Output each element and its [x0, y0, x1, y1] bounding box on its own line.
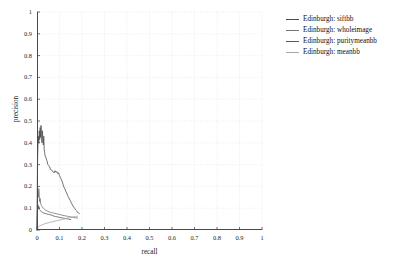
x-tick-label: 0 [35, 235, 38, 241]
x-tick-label: 0.5 [146, 235, 154, 241]
y-tick-label: 0.4 [0, 140, 32, 146]
y-tick-label: 0 [0, 227, 32, 233]
x-axis-title: recall [37, 248, 262, 256]
precision-recall-figure: 00.10.20.30.40.50.60.70.80.91 00.10.20.3… [0, 0, 420, 263]
legend-label: Edinburgh: siftbb [303, 16, 353, 23]
legend-item[interactable]: Edinburgh: puritymeanbb [286, 36, 418, 47]
y-tick-label: 0.8 [0, 52, 32, 58]
axis-tick-marks [37, 12, 262, 230]
y-axis-title: precision [12, 79, 20, 139]
legend-item[interactable]: Edinburgh: meanbb [286, 47, 418, 58]
legend-label: Edinburgh: puritymeanbb [303, 38, 377, 45]
x-tick-label: 1 [260, 235, 263, 241]
y-tick-label: 0.2 [0, 183, 32, 189]
y-tick-label: 0.9 [0, 31, 32, 37]
x-tick-label: 0.2 [78, 235, 86, 241]
x-tick-label: 0.9 [236, 235, 244, 241]
legend-color-swatch [286, 19, 299, 20]
x-tick-label: 0.1 [56, 235, 64, 241]
legend-label: Edinburgh: wholeimage [303, 27, 372, 34]
legend-color-swatch [286, 41, 299, 42]
legend-label: Edinburgh: meanbb [303, 49, 360, 56]
legend-item[interactable]: Edinburgh: wholeimage [286, 25, 418, 36]
legend-color-swatch [286, 30, 299, 31]
y-tick-label: 0.1 [0, 205, 32, 211]
x-tick-label: 0.6 [168, 235, 176, 241]
y-tick-label: 1 [0, 9, 32, 15]
x-tick-label: 0.8 [213, 235, 221, 241]
legend: Edinburgh: siftbbEdinburgh: wholeimageEd… [286, 14, 418, 58]
legend-color-swatch [286, 52, 299, 53]
y-tick-label: 0.3 [0, 161, 32, 167]
legend-item[interactable]: Edinburgh: siftbb [286, 14, 418, 25]
x-tick-label: 0.4 [123, 235, 131, 241]
x-tick-label: 0.3 [101, 235, 109, 241]
x-tick-label: 0.7 [191, 235, 199, 241]
plot-area [37, 12, 262, 230]
